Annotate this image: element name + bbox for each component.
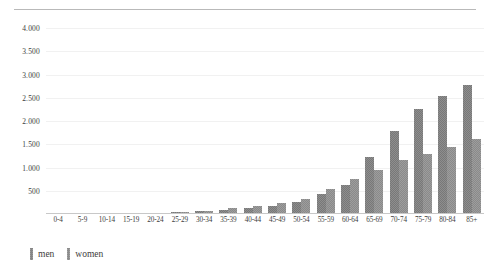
bar-group — [95, 28, 119, 214]
x-axis-tick-label: 20-24 — [143, 216, 167, 230]
x-axis-tick-label: 15-19 — [119, 216, 143, 230]
x-axis-tick-label: 55-59 — [314, 216, 338, 230]
bar-women — [399, 160, 408, 214]
bar-women — [472, 139, 481, 214]
legend-label: men — [38, 249, 54, 259]
bar-group — [70, 28, 94, 214]
bar-men — [414, 109, 423, 214]
x-axis-tick-label: 10-14 — [95, 216, 119, 230]
legend-item-men[interactable]: men — [30, 248, 54, 260]
bar-group — [289, 28, 313, 214]
bar-women — [326, 189, 335, 214]
bar-women — [350, 179, 359, 214]
bar-men — [438, 96, 447, 214]
x-axis-line — [46, 213, 484, 214]
legend-swatch-icon — [67, 248, 70, 260]
bar-group — [460, 28, 484, 214]
bar-men — [317, 194, 326, 214]
plot-area — [46, 28, 484, 214]
y-axis-tick-label: 3.000 — [22, 70, 40, 79]
legend-swatch-icon — [30, 248, 33, 260]
bar-groups — [46, 28, 484, 214]
x-axis-tick-label: 85+ — [460, 216, 484, 230]
bar-women — [374, 170, 383, 214]
x-axis-labels: 0-45-910-1415-1920-2425-2930-3435-3940-4… — [46, 216, 484, 230]
bar-women — [447, 147, 456, 214]
y-axis-tick-label: 1.000 — [22, 163, 40, 172]
chart-legend: menwomen — [30, 248, 103, 260]
bar-group — [168, 28, 192, 214]
bar-group — [241, 28, 265, 214]
bar-group — [435, 28, 459, 214]
x-axis-tick-label: 40-44 — [241, 216, 265, 230]
bar-men — [365, 157, 374, 214]
bar-men — [390, 131, 399, 214]
y-axis-tick-label: 3.500 — [22, 47, 40, 56]
bar-group — [362, 28, 386, 214]
bar-group — [46, 28, 70, 214]
bar-group — [192, 28, 216, 214]
x-axis-tick-label: 65-69 — [362, 216, 386, 230]
y-axis-tick-label: 2.000 — [22, 117, 40, 126]
bar-group — [387, 28, 411, 214]
header-divider — [14, 9, 476, 10]
bar-women — [301, 199, 310, 214]
x-axis-tick-label: 35-39 — [216, 216, 240, 230]
legend-item-women[interactable]: women — [67, 248, 103, 260]
x-axis-tick-label: 70-74 — [387, 216, 411, 230]
bar-women — [423, 154, 432, 214]
bar-group — [265, 28, 289, 214]
y-axis-labels: 4.0003.5003.0002.5002.0001.5001.000500 — [0, 28, 40, 214]
x-axis-tick-label: 5-9 — [70, 216, 94, 230]
chart-container: 4.0003.5003.0002.5002.0001.5001.000500 0… — [0, 0, 491, 274]
y-axis-tick-label: 1.500 — [22, 140, 40, 149]
legend-label: women — [75, 249, 103, 259]
y-axis-tick-label: 500 — [28, 186, 40, 195]
x-axis-tick-label: 25-29 — [168, 216, 192, 230]
y-axis-tick-label: 4.000 — [22, 24, 40, 33]
bar-group — [119, 28, 143, 214]
x-axis-tick-label: 30-34 — [192, 216, 216, 230]
bar-group — [314, 28, 338, 214]
x-axis-tick-label: 80-84 — [435, 216, 459, 230]
bar-men — [463, 85, 472, 214]
x-axis-tick-label: 60-64 — [338, 216, 362, 230]
bar-men — [341, 185, 350, 214]
y-axis-tick-label: 2.500 — [22, 93, 40, 102]
bar-group — [143, 28, 167, 214]
bar-group — [338, 28, 362, 214]
x-axis-tick-label: 75-79 — [411, 216, 435, 230]
x-axis-tick-label: 0-4 — [46, 216, 70, 230]
x-axis-tick-label: 50-54 — [289, 216, 313, 230]
x-axis-tick-label: 45-49 — [265, 216, 289, 230]
bar-group — [411, 28, 435, 214]
bar-group — [216, 28, 240, 214]
